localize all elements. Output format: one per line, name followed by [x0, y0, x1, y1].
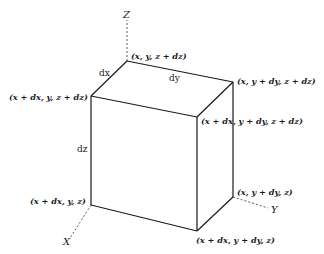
- vertex-label-bottom-back-right: (x, y + dy, z): [237, 187, 293, 197]
- dimension-label-dz: dz: [77, 144, 88, 154]
- edge-bottom-right: [197, 197, 233, 231]
- edge-top-front: [91, 96, 197, 117]
- edge-top-back: [127, 61, 233, 82]
- dimension-label-dy: dy: [169, 73, 181, 83]
- axis-label-x: X: [62, 236, 71, 247]
- y-axis: [233, 197, 268, 208]
- vertex-label-top-front-left: (x + dx, y, z + dz): [9, 92, 88, 102]
- dimension-label-dx: dx: [99, 68, 110, 78]
- vertex-label-bottom-front-right: (x + dx, y + dy, z): [196, 235, 275, 245]
- edge-bottom-front: [91, 205, 197, 231]
- x-axis: [70, 205, 91, 238]
- vertex-label-bottom-front-left: (x + dx, y, z): [30, 196, 86, 206]
- vertex-label-top-back-right: (x, y + dy, z + dz): [237, 76, 316, 86]
- axis-label-y: Y: [271, 204, 279, 215]
- volume-element-diagram: Z X Y dx dy dz (x, y, z + dz) (x + dx, y…: [0, 0, 324, 254]
- edge-top-left: [91, 61, 127, 96]
- cube: [91, 61, 233, 231]
- edge-top-right: [197, 82, 233, 117]
- vertex-label-top-front-right: (x + dx, y + dy, z + dz): [201, 116, 303, 126]
- vertex-label-top-back: (x, y, z + dz): [131, 51, 187, 61]
- axis-label-z: Z: [122, 9, 131, 20]
